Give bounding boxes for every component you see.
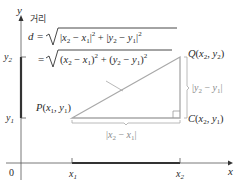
svg-text:d: d [28, 30, 34, 42]
y-axis-label: y [16, 4, 22, 16]
point-p-label: P(x1, y1) [35, 102, 72, 115]
brackets [72, 57, 189, 125]
formula-pointer-line [106, 81, 123, 91]
vertical-bracket [184, 57, 189, 118]
svg-text:|x2 − x1|2 + |y2 − y1|2: |x2 − x1|2 + |y2 − y1|2 [60, 30, 142, 45]
svg-text:(x2 − x1)2 + (y2 − y1)2: (x2 − x1)2 + (y2 − y1)2 [60, 52, 148, 67]
x2-label: x2 [175, 168, 184, 181]
origin-label: 0 [9, 167, 14, 178]
point-q-label: Q(x2, y2) [188, 48, 225, 61]
distance-annotation: 거리 [30, 14, 46, 24]
formula-line-1: d = |x2 − x1|2 + |y2 − y1|2 [28, 28, 177, 45]
horizontal-bracket [72, 120, 180, 125]
distance-diagram: y x 0 y2 y1 x1 x2 거리 d = |x2 − x1|2 + |y… [0, 0, 238, 182]
x-axis-label: x [227, 165, 233, 177]
x1-label: x1 [68, 168, 77, 181]
formula-line-2: = (x2 − x1)2 + (y2 − y1)2 [38, 50, 172, 67]
svg-text:=: = [38, 53, 44, 65]
svg-text:=: = [37, 30, 43, 42]
point-c-label: C(x2, y1) [188, 113, 224, 126]
y1-label: y1 [5, 112, 14, 125]
y2-label: y2 [3, 51, 12, 64]
horizontal-length-label: |x2 − x1| [106, 129, 137, 142]
vertical-length-label: |y2 − y1| [192, 82, 223, 95]
right-angle-marker-icon [173, 111, 180, 118]
